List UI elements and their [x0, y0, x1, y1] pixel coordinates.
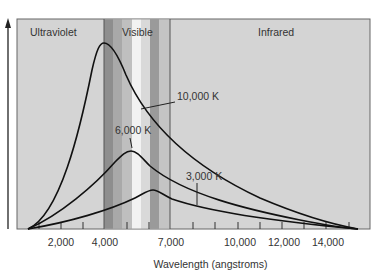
plot-area [17, 19, 370, 229]
curve-label-6000k: 6,000 K [115, 124, 151, 136]
x-tick-2000: 2,000 [48, 236, 74, 248]
y-axis-arrow-icon [5, 18, 11, 28]
x-tick-10000: 10,000 [224, 236, 256, 248]
curve-label-3000k: 3,000 K [186, 170, 222, 182]
region-label-ultraviolet: Ultraviolet [30, 26, 77, 38]
x-tick-4000: 4,000 [92, 236, 118, 248]
x-tick-14000: 14,000 [312, 236, 344, 248]
x-tick-7000: 7,000 [158, 236, 184, 248]
blackbody-chart [0, 0, 391, 271]
curve-label-10000k: 10,000 K [177, 90, 219, 102]
x-tick-12000: 12,000 [268, 236, 300, 248]
region-label-infrared: Infrared [258, 26, 294, 38]
region-label-visible: Visible [122, 26, 153, 38]
x-axis-label: Wavelength (angstroms) [0, 258, 391, 270]
